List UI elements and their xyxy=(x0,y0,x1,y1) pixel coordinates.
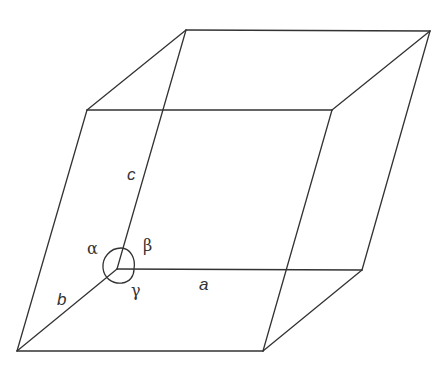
edge-back-top xyxy=(186,30,430,31)
label-beta: β xyxy=(143,236,152,255)
edge-front-left xyxy=(17,110,87,351)
edge-front-right xyxy=(263,110,332,351)
unit-cell-diagram: c a b α β γ xyxy=(0,0,441,366)
edge-bottom-right-depth xyxy=(263,270,362,351)
edge-top-right-depth xyxy=(332,31,430,110)
label-b: b xyxy=(57,290,66,309)
label-gamma: γ xyxy=(131,281,141,300)
edge-top-left-depth xyxy=(87,30,186,110)
edge-back-right xyxy=(362,31,430,270)
edge-b-axis xyxy=(17,269,117,351)
label-a: a xyxy=(199,275,208,294)
label-c: c xyxy=(127,165,136,184)
label-alpha: α xyxy=(87,239,98,258)
edge-c-axis xyxy=(117,30,186,269)
edge-a-axis xyxy=(117,269,362,270)
